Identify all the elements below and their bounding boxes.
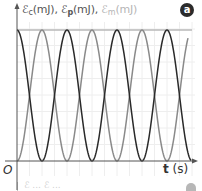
origin-label: O [3, 163, 12, 177]
ec-unit: (mJ), [33, 3, 61, 16]
y-axis-title: ℰc(mJ), ℰp(mJ), ℰm(mJ) [22, 3, 137, 17]
y-axis-arrow-icon [15, 3, 20, 9]
em-unit: (mJ) [115, 3, 137, 16]
next-panel-badge [186, 183, 196, 191]
ep-unit: (mJ), [73, 3, 101, 16]
grid-lines [17, 22, 195, 176]
x-axis-unit: (s) [169, 162, 188, 176]
x-axis-arrow-icon [192, 159, 198, 164]
next-panel-axis [17, 182, 18, 191]
panel-badge: a [180, 3, 194, 17]
x-axis-title: t (s) [163, 162, 188, 176]
next-panel-label: ℰ ... ℰ ... [24, 180, 61, 190]
next-panel-partial: ℰ ... ℰ ... [0, 180, 202, 191]
